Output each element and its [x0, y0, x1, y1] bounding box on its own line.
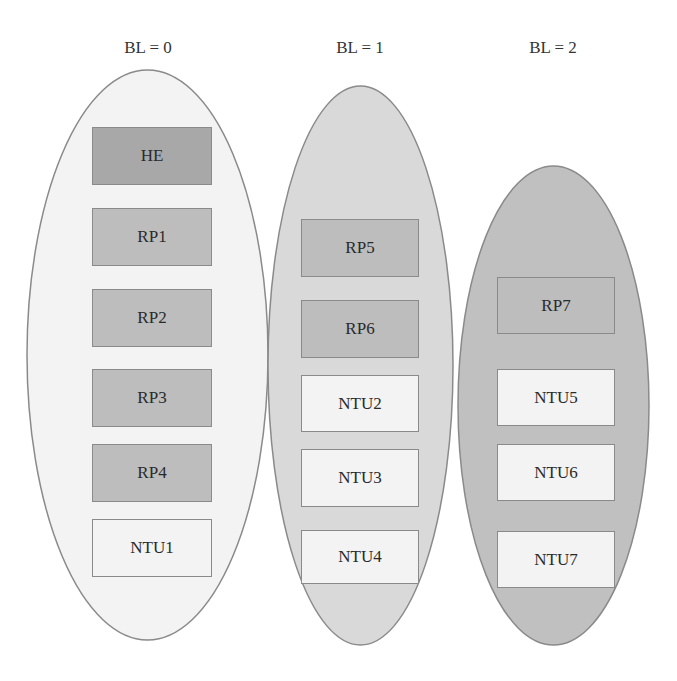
- node-ntu4: NTU4: [301, 530, 419, 584]
- node-rp2: RP2: [92, 289, 212, 347]
- node-ntu1: NTU1: [92, 519, 212, 577]
- node-rp7: RP7: [497, 277, 615, 334]
- node-rp4: RP4: [92, 444, 212, 502]
- group-label-bl2: BL = 2: [493, 38, 613, 58]
- node-rp5: RP5: [301, 219, 419, 277]
- node-rp1: RP1: [92, 208, 212, 266]
- node-ntu6: NTU6: [497, 444, 615, 501]
- node-he: HE: [92, 127, 212, 185]
- group-label-bl0: BL = 0: [88, 38, 208, 58]
- node-rp6: RP6: [301, 300, 419, 358]
- node-rp3: RP3: [92, 369, 212, 427]
- node-ntu5: NTU5: [497, 369, 615, 426]
- node-ntu7: NTU7: [497, 531, 615, 588]
- node-ntu3: NTU3: [301, 449, 419, 507]
- group-label-bl1: BL = 1: [300, 38, 420, 58]
- node-ntu2: NTU2: [301, 375, 419, 432]
